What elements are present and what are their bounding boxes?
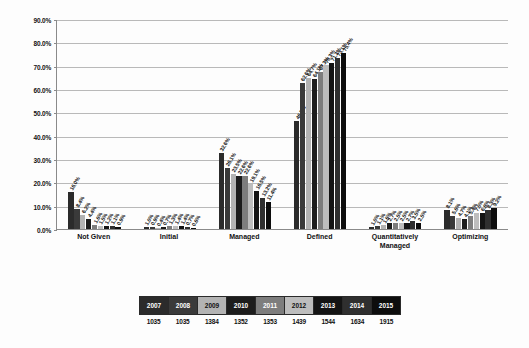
- bar[interactable]: [231, 174, 236, 229]
- bar-slot: 1.6%: [92, 20, 97, 229]
- bar[interactable]: [491, 208, 496, 229]
- chart-page: 0.0%10.0%20.0%30.0%40.0%50.0%60.0%70.0%8…: [0, 0, 529, 348]
- bar-slot: 8.3%: [485, 20, 490, 229]
- legend-swatch-2015[interactable]: 2015: [372, 297, 400, 314]
- bar[interactable]: [242, 176, 247, 229]
- bar[interactable]: [80, 215, 85, 229]
- bar[interactable]: [68, 192, 73, 229]
- bar[interactable]: [161, 227, 166, 229]
- legend-swatch-2008[interactable]: 2008: [169, 297, 198, 314]
- x-axis-labels: Not GivenInitialManagedDefinedQuantitati…: [56, 232, 508, 250]
- legend-count-2014: 1634: [343, 318, 372, 325]
- bar[interactable]: [404, 223, 409, 229]
- bar[interactable]: [387, 223, 392, 229]
- bar[interactable]: [225, 168, 230, 229]
- bar[interactable]: [104, 226, 109, 229]
- bar-chart: 0.0%10.0%20.0%30.0%40.0%50.0%60.0%70.0%8…: [0, 0, 529, 272]
- bar[interactable]: [399, 223, 404, 229]
- bar[interactable]: [219, 153, 224, 229]
- bar[interactable]: [341, 53, 346, 229]
- bar-groups: 16.0%8.4%6.2%4.4%1.6%1.5%1.2%1.1%0.9%1.0…: [57, 20, 508, 229]
- bar-slot: 16.5%: [254, 20, 259, 229]
- bar-slot: 62.6%: [300, 20, 305, 229]
- bar[interactable]: [456, 218, 461, 229]
- bar[interactable]: [236, 176, 241, 229]
- bar[interactable]: [335, 58, 340, 229]
- bar[interactable]: [393, 223, 398, 229]
- bar[interactable]: [185, 227, 190, 229]
- bar[interactable]: [474, 213, 479, 229]
- x-axis-label: Managed: [207, 232, 282, 250]
- bar[interactable]: [444, 210, 449, 229]
- bar[interactable]: [375, 226, 380, 229]
- bar-slot: 5.4%: [468, 20, 473, 229]
- legend-swatch-2013[interactable]: 2013: [314, 297, 343, 314]
- bar[interactable]: [485, 210, 490, 229]
- legend-swatch-2009[interactable]: 2009: [198, 297, 227, 314]
- bar-group: 46.5%62.6%64.7%64.1%67.3%70.3%71.3%73.1%…: [283, 20, 358, 229]
- bar[interactable]: [110, 226, 115, 229]
- bar[interactable]: [150, 227, 155, 229]
- bar[interactable]: [144, 227, 149, 229]
- bar[interactable]: [312, 79, 317, 229]
- bar-slot: 46.5%: [294, 20, 299, 229]
- bar[interactable]: [306, 78, 311, 229]
- bar[interactable]: [294, 121, 299, 230]
- bar-group: 8.1%5.6%4.7%4.1%5.4%7.0%6.8%8.3%9.2%: [433, 20, 508, 229]
- bar[interactable]: [450, 216, 455, 229]
- legend-swatch-2014[interactable]: 2014: [343, 297, 372, 314]
- legend-count-2011: 1353: [255, 318, 284, 325]
- bar[interactable]: [167, 226, 172, 229]
- y-axis-tick-label: 80.0%: [34, 40, 57, 47]
- bar[interactable]: [300, 83, 305, 229]
- bar[interactable]: [260, 198, 265, 229]
- bar-slot: 1.6%: [381, 20, 386, 229]
- bar[interactable]: [318, 72, 323, 229]
- bar[interactable]: [329, 63, 334, 229]
- bar-slot: 1.1%: [110, 20, 115, 229]
- legend-swatch-2010[interactable]: 2010: [227, 297, 256, 314]
- bar-slot: 64.7%: [306, 20, 311, 229]
- bar[interactable]: [155, 228, 160, 229]
- bar[interactable]: [381, 225, 386, 229]
- bar-slot: 9.2%: [491, 20, 496, 229]
- bar[interactable]: [191, 228, 196, 229]
- bar[interactable]: [173, 226, 178, 229]
- bar[interactable]: [462, 219, 467, 229]
- bar[interactable]: [92, 225, 97, 229]
- bar[interactable]: [369, 227, 374, 229]
- bar[interactable]: [115, 227, 120, 229]
- bar[interactable]: [98, 226, 103, 230]
- bar[interactable]: [179, 226, 184, 229]
- legend-swatch-2012[interactable]: 2012: [285, 297, 314, 314]
- legend-swatch-2007[interactable]: 2007: [140, 297, 169, 314]
- bar-value-label: 0.6%: [191, 214, 202, 227]
- bar-slot: 22.6%: [242, 20, 247, 229]
- bar-slot: 11.4%: [266, 20, 271, 229]
- bar[interactable]: [266, 202, 271, 229]
- bar[interactable]: [248, 184, 253, 229]
- legend-count-2009: 1384: [197, 318, 226, 325]
- bar[interactable]: [86, 219, 91, 229]
- bar-slot: 4.1%: [462, 20, 467, 229]
- bar[interactable]: [416, 223, 421, 229]
- bar-slot: 19.1%: [248, 20, 253, 229]
- bar-slot: 2.5%: [416, 20, 421, 229]
- bar[interactable]: [468, 216, 473, 229]
- bar[interactable]: [254, 191, 259, 230]
- bar[interactable]: [410, 221, 415, 229]
- bar[interactable]: [323, 65, 328, 229]
- bar-slot: 0.6%: [191, 20, 196, 229]
- bar-slot: 1.0%: [369, 20, 374, 229]
- legend-count-2012: 1439: [285, 318, 314, 325]
- bar-slot: 5.6%: [450, 20, 455, 229]
- bar-slot: 32.6%: [219, 20, 224, 229]
- bar-slot: 8.4%: [74, 20, 79, 229]
- x-axis-label: Defined: [282, 232, 357, 250]
- legend-swatch-2011[interactable]: 2011: [256, 297, 285, 314]
- bar-slot: 1.5%: [98, 20, 103, 229]
- bar[interactable]: [74, 209, 79, 229]
- bar-value-label: 75.4%: [341, 37, 353, 52]
- bar[interactable]: [480, 213, 485, 229]
- bar-slot: 1.0%: [144, 20, 149, 229]
